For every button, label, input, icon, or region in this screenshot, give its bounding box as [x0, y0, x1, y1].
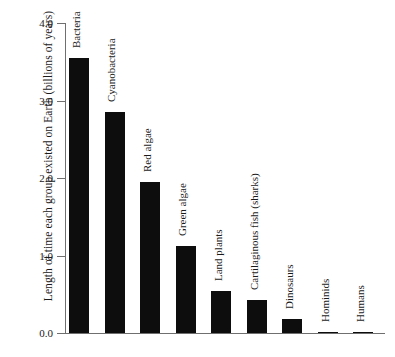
y-tick-label: 4.0 — [23, 18, 53, 29]
x-axis-line — [65, 333, 385, 334]
bar — [318, 332, 338, 333]
bar-group: Cyanobacteria — [105, 23, 141, 333]
bar-chart: Length of time each group existed on Ear… — [0, 0, 395, 357]
bar-label: Hominids — [319, 279, 331, 322]
bar-group: Green algae — [176, 23, 212, 333]
bar-label: Green algae — [176, 183, 188, 236]
bar — [140, 182, 160, 333]
bar-label: Land plants — [212, 230, 224, 282]
y-tick-label: 1.0 — [23, 250, 53, 261]
y-tick-mark — [57, 178, 65, 179]
bar-group: Bacteria — [69, 23, 105, 333]
bar — [69, 58, 89, 333]
bar-group: Red algae — [140, 23, 176, 333]
bar — [247, 300, 267, 333]
bar-label: Red algae — [141, 128, 153, 172]
bar — [105, 112, 125, 333]
y-tick-mark — [57, 23, 65, 24]
bar — [176, 246, 196, 333]
y-tick-mark — [57, 256, 65, 257]
bar — [353, 332, 373, 333]
bar-label: Humans — [354, 285, 366, 322]
bar-label: Bacteria — [70, 11, 82, 48]
bar-group: Hominids — [318, 23, 354, 333]
bar-label: Cyanobacteria — [105, 39, 117, 103]
bar-group: Dinosaurs — [282, 23, 318, 333]
bar-label: Dinosaurs — [283, 264, 295, 309]
plot-area: BacteriaCyanobacteriaRed algaeGreen alga… — [65, 23, 385, 333]
y-tick-label: 2.0 — [23, 173, 53, 184]
bar-group: Cartilaginous fish (sharks) — [247, 23, 283, 333]
bar-group: Land plants — [211, 23, 247, 333]
bar — [211, 291, 231, 333]
bar-group: Humans — [353, 23, 389, 333]
bar — [282, 319, 302, 333]
bar-label: Cartilaginous fish (sharks) — [248, 173, 260, 290]
y-tick-label: 3.0 — [23, 95, 53, 106]
y-tick-label: 0.0 — [23, 328, 53, 339]
y-axis-title: Length of time each group existed on Ear… — [42, 0, 54, 316]
y-tick-mark — [57, 333, 65, 334]
y-tick-mark — [57, 101, 65, 102]
